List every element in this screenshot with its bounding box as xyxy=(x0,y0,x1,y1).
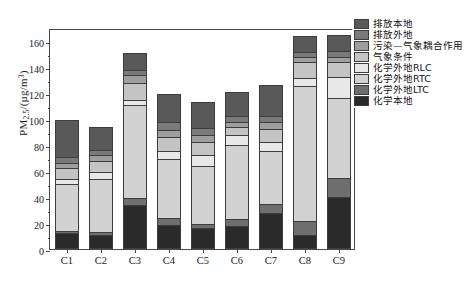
bar-segment[interactable] xyxy=(225,219,249,226)
bar-segment[interactable] xyxy=(327,57,351,62)
bar-segment[interactable] xyxy=(55,157,79,164)
bar-segment[interactable] xyxy=(157,218,181,225)
bar-segment[interactable] xyxy=(157,122,181,130)
legend-swatch-icon xyxy=(354,63,369,73)
bar-segment[interactable] xyxy=(259,213,283,249)
bar-segment[interactable] xyxy=(259,122,283,129)
bar-segment[interactable] xyxy=(259,142,283,151)
bar-segment[interactable] xyxy=(293,57,317,62)
bar-segment[interactable] xyxy=(157,94,181,123)
bar-segment[interactable] xyxy=(123,198,147,205)
bar-segment[interactable] xyxy=(89,235,113,249)
bar-segment[interactable] xyxy=(327,51,351,56)
bar-segment[interactable] xyxy=(123,83,147,100)
x-axis-tick xyxy=(305,249,306,253)
y-axis-tick xyxy=(46,251,50,252)
legend-item[interactable]: 化学本地 xyxy=(354,95,463,106)
legend-item[interactable]: 排放本地 xyxy=(354,18,463,29)
bar-segment[interactable] xyxy=(293,78,317,86)
bar-segment[interactable] xyxy=(55,231,79,234)
bar-segment[interactable] xyxy=(327,178,351,198)
bar-segment[interactable] xyxy=(123,70,147,75)
bar-segment[interactable] xyxy=(259,204,283,212)
bar-segment[interactable] xyxy=(327,62,351,78)
bar-segment[interactable] xyxy=(191,224,215,228)
bar-segment[interactable] xyxy=(259,151,283,204)
bar-segment[interactable] xyxy=(157,159,181,219)
bar-segment[interactable] xyxy=(259,116,283,123)
bar-segment[interactable] xyxy=(55,184,79,231)
bar-segment[interactable] xyxy=(55,179,79,184)
bar-segment[interactable] xyxy=(225,135,249,145)
bar-segment[interactable] xyxy=(293,52,317,57)
bar-segment[interactable] xyxy=(225,116,249,121)
x-axis-tick-label: C3 xyxy=(129,255,141,266)
bar-segment[interactable] xyxy=(293,62,317,78)
bar-segment[interactable] xyxy=(123,105,147,199)
bar-c9[interactable] xyxy=(327,35,351,250)
legend-item[interactable]: 化学外地RTC xyxy=(354,73,463,84)
bar-segment[interactable] xyxy=(225,122,249,127)
bar-segment[interactable] xyxy=(157,130,181,137)
legend-item[interactable]: 污染—气象耦合作用 xyxy=(354,40,463,51)
bar-c5[interactable] xyxy=(191,102,215,249)
bar-segment[interactable] xyxy=(157,137,181,151)
bar-c2[interactable] xyxy=(89,127,113,249)
bar-segment[interactable] xyxy=(191,128,215,135)
bar-segment[interactable] xyxy=(157,151,181,159)
bar-c1[interactable] xyxy=(55,120,79,249)
legend-item[interactable]: 化学外地LTC xyxy=(354,84,463,95)
bar-c3[interactable] xyxy=(123,53,147,249)
bar-segment[interactable] xyxy=(123,100,147,105)
bar-segment[interactable] xyxy=(327,197,351,249)
legend-item[interactable]: 化学外地RLC xyxy=(354,62,463,73)
bar-segment[interactable] xyxy=(89,155,113,160)
bar-segment[interactable] xyxy=(157,225,181,249)
bar-segment[interactable] xyxy=(191,155,215,165)
bar-segment[interactable] xyxy=(327,35,351,52)
bar-segment[interactable] xyxy=(293,86,317,221)
bar-segment[interactable] xyxy=(293,235,317,249)
y-axis-tick-label: 100 xyxy=(29,116,44,127)
x-axis-tick-label: C7 xyxy=(265,255,277,266)
bar-segment[interactable] xyxy=(191,142,215,155)
bar-segment[interactable] xyxy=(225,145,249,219)
bar-segment[interactable] xyxy=(55,163,79,168)
y-axis-tick xyxy=(46,69,50,70)
bar-segment[interactable] xyxy=(191,228,215,249)
bar-segment[interactable] xyxy=(89,127,113,150)
bar-segment[interactable] xyxy=(89,232,113,235)
bar-segment[interactable] xyxy=(225,226,249,249)
bar-segment[interactable] xyxy=(191,102,215,128)
bar-segment[interactable] xyxy=(55,168,79,178)
legend-item[interactable]: 气象条件 xyxy=(354,51,463,62)
bar-segment[interactable] xyxy=(225,92,249,117)
y-axis-tick-label: 60 xyxy=(34,168,44,179)
legend-item[interactable]: 排放外地 xyxy=(354,29,463,40)
bar-c4[interactable] xyxy=(157,94,181,249)
bar-segment[interactable] xyxy=(89,179,113,232)
bar-segment[interactable] xyxy=(293,36,317,52)
bar-segment[interactable] xyxy=(123,53,147,70)
bar-segment[interactable] xyxy=(191,135,215,143)
bar-segment[interactable] xyxy=(55,120,79,156)
bar-segment[interactable] xyxy=(89,161,113,173)
y-axis-tick xyxy=(46,173,50,174)
bar-segment[interactable] xyxy=(327,98,351,177)
bar-segment[interactable] xyxy=(327,77,351,98)
bar-segment[interactable] xyxy=(191,166,215,225)
bar-segment[interactable] xyxy=(225,127,249,135)
bar-segment[interactable] xyxy=(89,150,113,155)
bar-segment[interactable] xyxy=(123,205,147,249)
bar-segment[interactable] xyxy=(55,233,79,249)
bar-segment[interactable] xyxy=(293,221,317,235)
bar-segment[interactable] xyxy=(259,85,283,116)
bar-c8[interactable] xyxy=(293,36,317,249)
bar-segment[interactable] xyxy=(89,172,113,179)
x-axis-tick xyxy=(101,249,102,253)
bar-c7[interactable] xyxy=(259,85,283,249)
bar-segment[interactable] xyxy=(123,75,147,83)
y-axis-tick xyxy=(46,43,50,44)
bar-segment[interactable] xyxy=(259,129,283,142)
bar-c6[interactable] xyxy=(225,92,249,249)
